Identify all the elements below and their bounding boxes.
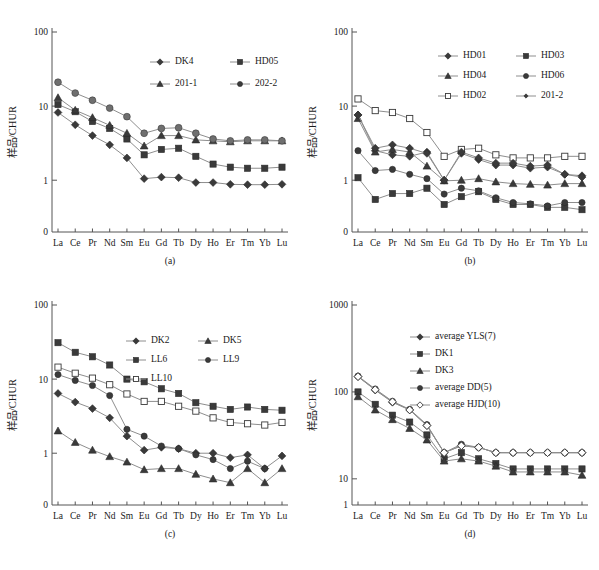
data-point xyxy=(544,449,552,457)
x-tick-label-tm: Tm xyxy=(241,511,255,521)
data-point xyxy=(193,153,199,159)
legend-marker-circle-icon xyxy=(237,81,242,86)
legend: DK2DK5LL6LL9LL10 xyxy=(126,335,242,383)
data-point xyxy=(176,403,182,409)
data-point xyxy=(158,146,164,152)
panel-c: 1001010LaCePrNdSmEuGdTbDyHoErTmYbLu样品/CH… xyxy=(0,283,299,568)
data-point xyxy=(244,181,252,189)
legend: average YLS(7)DK1DK3average DD(5)average… xyxy=(410,331,500,410)
data-point xyxy=(193,452,199,458)
data-point xyxy=(210,403,216,409)
x-tick-label-sm: Sm xyxy=(121,238,134,248)
legend-label: average HJD(10) xyxy=(435,399,500,410)
x-tick-label-lu: Lu xyxy=(577,238,588,248)
data-point xyxy=(389,109,395,115)
data-point xyxy=(210,415,216,421)
legend-label: DK1 xyxy=(435,348,454,358)
data-point xyxy=(193,400,199,406)
data-point xyxy=(458,185,464,191)
legend-marker-square-icon xyxy=(417,351,422,356)
y-axis-origin-label: 0 xyxy=(43,500,48,510)
data-point xyxy=(355,148,361,154)
legend-label: LL10 xyxy=(151,373,172,383)
x-tick-label-yb: Yb xyxy=(559,511,571,521)
data-point xyxy=(493,195,499,201)
series-hd01 xyxy=(354,111,586,184)
x-tick-label-lu: Lu xyxy=(277,238,288,248)
data-point xyxy=(141,379,147,385)
data-point xyxy=(389,190,395,196)
series-201-2 xyxy=(354,111,586,184)
data-point xyxy=(124,426,130,432)
data-point xyxy=(123,129,131,136)
x-tick-label-pr: Pr xyxy=(388,511,397,521)
data-point xyxy=(55,101,61,107)
data-point xyxy=(244,421,250,427)
x-tick-label-tb: Tb xyxy=(473,238,484,248)
series-dk2 xyxy=(54,390,286,473)
data-point xyxy=(354,111,362,119)
data-point xyxy=(544,155,550,161)
data-point xyxy=(424,176,430,182)
x-tick-label-ce: Ce xyxy=(70,511,81,521)
x-tick-label-eu: Eu xyxy=(439,511,450,521)
data-point xyxy=(124,391,130,397)
data-point xyxy=(89,354,95,360)
legend-label: HD05 xyxy=(255,56,278,66)
panel-a: 1001010LaCePrNdSmEuGdTbDyHoErTmYbLu样品/CH… xyxy=(0,10,299,295)
x-tick-label-ce: Ce xyxy=(70,238,81,248)
x-tick-label-ho: Ho xyxy=(507,511,519,521)
data-point xyxy=(579,199,585,205)
data-point xyxy=(389,141,397,149)
legend-label: HD03 xyxy=(541,50,564,60)
data-point xyxy=(124,113,131,120)
data-point xyxy=(227,164,233,170)
legend-marker-circle-icon xyxy=(205,357,210,362)
x-tick-label-pr: Pr xyxy=(88,238,97,248)
panel-b: 1001010LaCePrNdSmEuGdTbDyHoErTmYbLu样品/CH… xyxy=(300,10,599,295)
data-point xyxy=(54,109,62,117)
data-point xyxy=(106,141,114,149)
data-point xyxy=(175,124,182,131)
x-tick-label-tb: Tb xyxy=(473,511,484,521)
data-point xyxy=(355,96,361,102)
x-tick-label-dy: Dy xyxy=(190,238,202,248)
x-tick-label-nd: Nd xyxy=(104,511,116,521)
data-point xyxy=(492,449,500,457)
y-tick-label: 100 xyxy=(334,27,349,37)
x-tick-label-lu: Lu xyxy=(277,511,288,521)
legend-marker-diamond-icon xyxy=(417,334,423,340)
legend-label: HD02 xyxy=(463,90,486,100)
x-tick-label-gd: Gd xyxy=(456,511,468,521)
data-point xyxy=(475,444,483,452)
data-point xyxy=(72,90,79,97)
data-point xyxy=(54,427,62,434)
legend-marker-diamond-open-icon xyxy=(417,402,423,408)
data-point xyxy=(89,114,97,121)
data-point xyxy=(141,130,148,137)
x-tick-label-ho: Ho xyxy=(507,238,519,248)
data-point xyxy=(71,398,79,406)
data-point xyxy=(55,372,61,378)
legend-marker-square-open-icon xyxy=(445,93,450,98)
legend-marker-circle-icon xyxy=(523,73,528,78)
y-tick-label: 10 xyxy=(339,474,349,484)
data-point xyxy=(158,443,164,449)
data-point xyxy=(244,136,251,143)
data-point xyxy=(107,392,113,398)
y-axis-title: 样品/CHUR xyxy=(6,379,18,431)
data-point xyxy=(509,449,517,457)
data-point xyxy=(89,382,95,388)
x-tick-label-dy: Dy xyxy=(490,238,502,248)
data-point xyxy=(441,201,447,207)
x-tick-label-nd: Nd xyxy=(404,238,416,248)
legend-marker-square-open-icon xyxy=(133,376,138,381)
legend-marker-circle-icon xyxy=(417,385,422,390)
legend-label: HD04 xyxy=(463,70,486,80)
x-tick-label-ce: Ce xyxy=(370,238,381,248)
data-point xyxy=(562,199,568,205)
data-point xyxy=(527,201,533,207)
x-tick-label-eu: Eu xyxy=(439,238,450,248)
data-point xyxy=(55,340,61,346)
x-tick-label-la: La xyxy=(353,511,364,521)
